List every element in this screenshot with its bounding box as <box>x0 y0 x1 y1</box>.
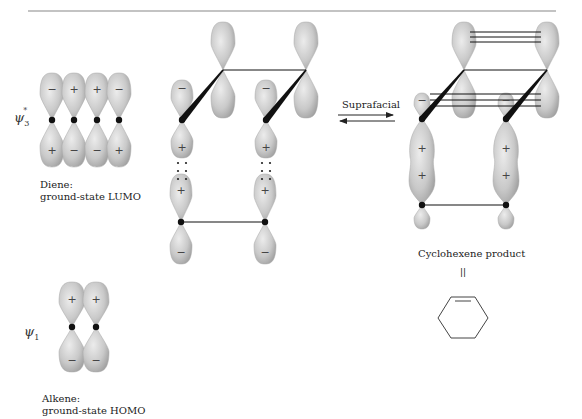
bonds <box>177 32 548 222</box>
product-sigma-sign-lower: + <box>417 169 426 182</box>
interaction-dot <box>185 170 187 172</box>
interaction-dot <box>185 178 187 180</box>
interaction-dot <box>261 178 263 180</box>
diene-lobe-top <box>62 73 86 120</box>
ts-sign-top: − <box>261 82 270 95</box>
ts-front-atom <box>263 117 269 123</box>
ts-back-lobe-top <box>211 22 235 70</box>
diene-atom <box>116 117 122 123</box>
interaction-dot <box>177 162 179 164</box>
interaction-dot <box>177 170 179 172</box>
interaction-dot <box>261 170 263 172</box>
ts-alkene-sign-bottom: − <box>176 246 185 259</box>
diene-lobe-top <box>107 73 131 120</box>
ts-alkene-lobe-top <box>254 174 276 222</box>
ts-back-lobe-top <box>294 22 318 70</box>
alkene-sign-top: + <box>91 293 100 306</box>
diene-caption-1: Diene: <box>40 179 73 191</box>
diene-sign-top: + <box>92 83 101 96</box>
diene-caption-2: ground-state LUMO <box>40 191 141 203</box>
alkene-sign-bottom: − <box>67 354 76 367</box>
equilibrium-arrows <box>338 115 395 121</box>
interaction-dot <box>177 178 179 180</box>
ts-sign-top: − <box>177 82 186 95</box>
alkene-sign-top: + <box>67 293 76 306</box>
ts-front-atom <box>179 117 185 123</box>
alkene-caption-1: Alkene: <box>42 393 80 405</box>
product-sign-top: − <box>501 94 510 107</box>
product-sigma-bond-lobe <box>409 119 435 205</box>
ts-alkene-sign-bottom: − <box>260 246 269 259</box>
psi1-label: ψ1 <box>24 324 39 342</box>
ts-alkene-sign-top: + <box>260 184 269 197</box>
ts-alkene-atom <box>262 219 268 225</box>
product-caption: Cyclohexene product <box>418 248 525 260</box>
diene-sign-top: − <box>47 83 56 96</box>
alkene-caption-2: ground-state HOMO <box>42 405 145 417</box>
diene-sign-bottom: − <box>92 144 101 157</box>
ts-alkene-lobe-top <box>170 174 192 222</box>
product-front-atom <box>419 116 425 122</box>
product-back-lobe-top <box>535 22 559 70</box>
diene-sign-bottom: + <box>47 144 56 157</box>
diene-sign-top: − <box>114 83 123 96</box>
interaction-dot <box>185 162 187 164</box>
ts-sign-front-bottom: + <box>177 141 186 154</box>
product-sigma-sign-upper: + <box>501 142 510 155</box>
alkene-atom <box>93 324 99 330</box>
suprafacial-label: Suprafacial <box>342 99 400 111</box>
interaction-dot <box>269 178 271 180</box>
diene-atom <box>49 117 55 123</box>
product-sigma-sign-upper: + <box>417 142 426 155</box>
product-low-lobe-bottom <box>498 205 514 229</box>
ts-back-lobe-bottom <box>211 70 235 118</box>
product-front-atom <box>503 116 509 122</box>
figure: −++−+−−++−+−−+−++−+−−++−++ ψ3* Diene: gr… <box>0 0 582 419</box>
interaction-dot <box>269 162 271 164</box>
ts-alkene-atom <box>178 219 184 225</box>
equivalence-mark: || <box>460 266 466 278</box>
diene-sign-bottom: − <box>69 144 78 157</box>
product-lower-atom <box>419 202 425 208</box>
diene-sign-bottom: + <box>114 144 123 157</box>
diene-atom <box>94 117 100 123</box>
alkene-sign-bottom: − <box>91 354 100 367</box>
product-sigma-bond-lobe <box>493 119 519 205</box>
product-lower-atom <box>503 202 509 208</box>
interaction-dot <box>269 170 271 172</box>
cyclohexene-structure <box>438 297 488 338</box>
product-sigma-sign-lower: + <box>501 169 510 182</box>
ts-back-lobe-bottom <box>294 70 318 118</box>
psi3-star-label: ψ3* <box>14 110 33 128</box>
product-back-lobe-top <box>452 22 476 70</box>
alkene-atom <box>69 324 75 330</box>
interaction-dot <box>261 162 263 164</box>
ts-sign-front-bottom: + <box>261 141 270 154</box>
diagram-canvas: −++−+−−++−+−−+−++−+−−++−++ <box>0 0 582 419</box>
product-low-lobe-bottom <box>414 205 430 229</box>
cyclohexene-ring <box>438 297 488 338</box>
diene-lobe-top <box>40 73 64 120</box>
product-sign-top: − <box>417 94 426 107</box>
diene-sign-top: + <box>69 83 78 96</box>
diene-atom <box>71 117 77 123</box>
diene-lobe-top <box>85 73 109 120</box>
ts-alkene-sign-top: + <box>176 184 185 197</box>
